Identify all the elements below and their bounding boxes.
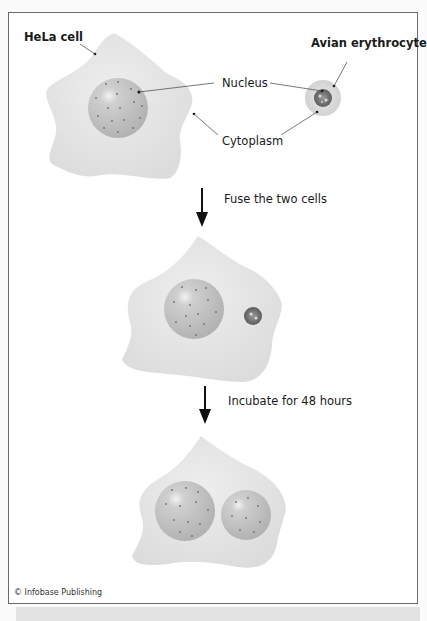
fused-cell: [122, 236, 282, 382]
step-label-incubate: Incubate for 48 hours: [228, 394, 352, 408]
hela-cell: [46, 34, 195, 179]
avian-erythrocyte: [305, 80, 341, 116]
hela-nucleus: [88, 78, 148, 138]
cell-fusion-diagram: [0, 0, 427, 621]
label-avian-erythrocyte: Avian erythrocyte: [311, 36, 427, 50]
label-nucleus: Nucleus: [222, 76, 268, 90]
binucleate-cell: [132, 436, 286, 568]
label-cytoplasm: Cytoplasm: [222, 134, 283, 148]
arrow-down-icon: [199, 386, 211, 424]
figure-page: HeLa cell Avian erythrocyte Nucleus Cyto…: [0, 0, 427, 621]
step-label-fuse: Fuse the two cells: [224, 192, 327, 206]
label-hela-cell: HeLa cell: [24, 30, 83, 44]
copyright-credit: © Infobase Publishing: [14, 588, 102, 597]
arrow-down-icon: [196, 188, 208, 227]
